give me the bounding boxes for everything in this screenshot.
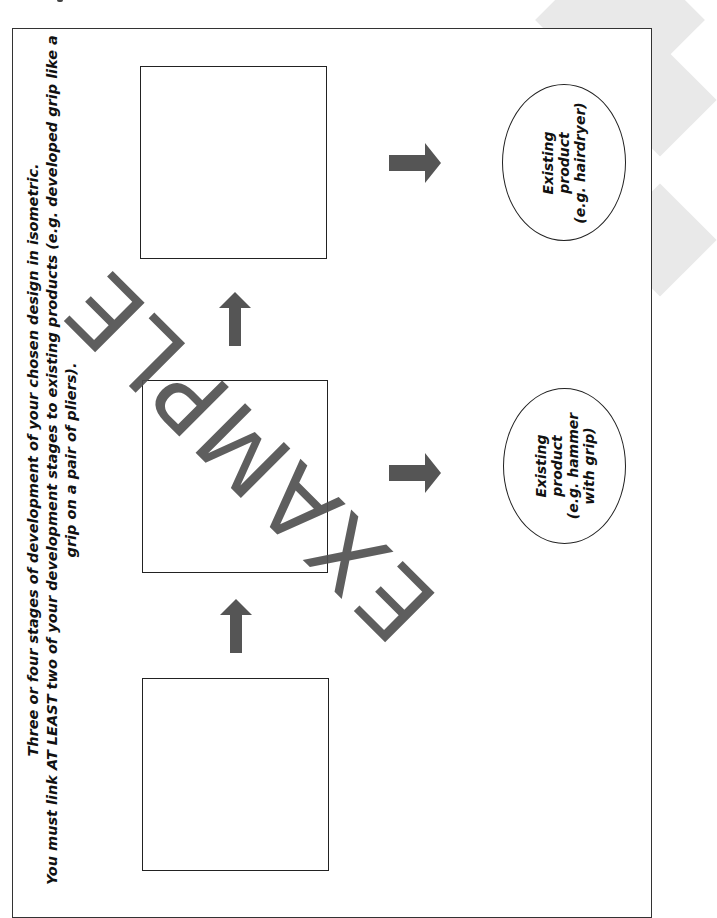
instructions: Three or four stages of development of y…	[22, 30, 82, 890]
instruction-line-2: You must link AT LEAST two of your devel…	[43, 30, 81, 890]
instruction-line-1: Three or four stages of development of y…	[24, 30, 43, 890]
existing-product-hairdryer[interactable]: Existing product (e.g. hairdryer)	[502, 84, 626, 241]
stage-box-2[interactable]	[142, 380, 328, 573]
arrow-up-icon	[220, 599, 252, 653]
stage-box-3[interactable]	[142, 678, 329, 871]
existing-product-label: Existing product (e.g. hammer with grip)	[533, 406, 597, 527]
page-fragment-glyph	[57, 0, 63, 2]
arrow-right-icon	[389, 143, 441, 183]
arrow-up-icon	[219, 292, 251, 346]
existing-product-label: Existing product (e.g. hairdryer)	[540, 102, 588, 224]
arrow-right-icon	[389, 453, 441, 493]
stage-box-1[interactable]	[140, 66, 327, 259]
existing-product-hammer[interactable]: Existing product (e.g. hammer with grip)	[503, 388, 626, 544]
